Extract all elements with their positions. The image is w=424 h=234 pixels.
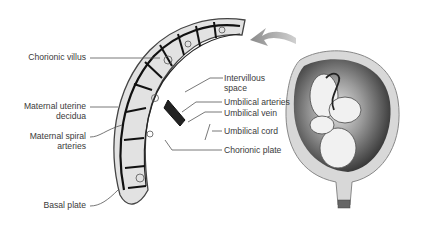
- placenta-diagram: Chorionic villus Maternal uterine decidu…: [0, 0, 424, 234]
- label-chorionic-villus: Chorionic villus: [24, 52, 86, 62]
- label-umbilical-cord: Umbilical cord: [224, 126, 278, 136]
- label-maternal-uterine-decidua: Maternal uterine decidua: [10, 101, 86, 121]
- arrow-icon: [250, 28, 296, 46]
- label-umbilical-arteries: Umbilical arteries: [224, 97, 290, 107]
- uterus-illustration: [286, 51, 399, 208]
- label-basal-plate: Basal plate: [20, 200, 86, 210]
- label-chorionic-plate: Chorionic plate: [224, 145, 281, 155]
- label-umbilical-vein: Umbilical vein: [224, 108, 277, 118]
- label-maternal-spiral-arteries: Maternal spiral arteries: [10, 131, 86, 151]
- label-intervillous-space: Intervillous space: [224, 73, 265, 93]
